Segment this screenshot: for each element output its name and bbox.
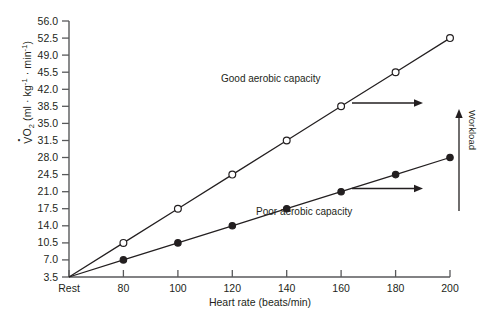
y-tick-label: 35.0	[18, 118, 58, 129]
x-tick-label: 100	[153, 283, 203, 294]
x-tick-label: 80	[98, 283, 148, 294]
data-point-poor-120	[229, 223, 235, 229]
y-tick-label: 42.0	[18, 84, 58, 95]
y-tick-label: 56.0	[18, 16, 58, 27]
x-tick-label: 180	[371, 283, 421, 294]
data-point-poor-200	[447, 154, 453, 160]
annotation-good-aerobic-capacity: Good aerobic capacity	[221, 73, 321, 84]
x-axis-label: Heart rate (beats/min)	[110, 296, 410, 308]
y-tick-label: 21.0	[18, 186, 58, 197]
x-tick-label: 140	[262, 283, 312, 294]
data-point-poor-80	[120, 257, 126, 263]
y-tick-label: 24.5	[18, 169, 58, 180]
y-tick-label: 10.5	[18, 237, 58, 248]
y-tick-label: 31.5	[18, 135, 58, 146]
arrow-good-aerobic-icon	[352, 99, 423, 106]
chart-canvas	[0, 0, 494, 312]
data-point-good-180	[392, 69, 399, 76]
x-tick-label: 120	[207, 283, 257, 294]
y-axis-ticks	[62, 21, 69, 277]
y-tick-label: 7.0	[18, 254, 58, 265]
x-axis-ticks	[69, 270, 450, 277]
arrow-poor-aerobic-icon	[352, 185, 423, 192]
annotation-workload: Workload	[467, 110, 478, 150]
data-point-good-120	[229, 171, 236, 178]
y-tick-label: 14.0	[18, 220, 58, 231]
chart-figure: VO2 (ml · kg-1 · min-1)	[0, 0, 494, 312]
y-tick-label: 28.0	[18, 152, 58, 163]
y-tick-label: 45.5	[18, 67, 58, 78]
data-point-good-200	[447, 35, 454, 42]
data-point-poor-180	[392, 171, 398, 177]
data-point-good-140	[283, 137, 290, 144]
y-tick-label: 52.5	[18, 33, 58, 44]
y-tick-label: 17.5	[18, 203, 58, 214]
y-tick-label: 3.5	[18, 272, 58, 283]
data-point-poor-160	[338, 189, 344, 195]
x-tick-label: Rest	[44, 283, 94, 294]
y-tick-label: 49.0	[18, 50, 58, 61]
data-point-good-100	[175, 205, 182, 212]
data-point-good-160	[338, 103, 345, 110]
data-point-poor-100	[175, 240, 181, 246]
y-tick-label: 38.5	[18, 101, 58, 112]
annotation-poor-aerobic-capacity: Poor aerobic capacity	[256, 206, 352, 217]
x-tick-label: 160	[316, 283, 366, 294]
arrow-workload-icon	[455, 109, 462, 211]
data-point-good-80	[120, 240, 127, 247]
x-tick-label: 200	[425, 283, 475, 294]
